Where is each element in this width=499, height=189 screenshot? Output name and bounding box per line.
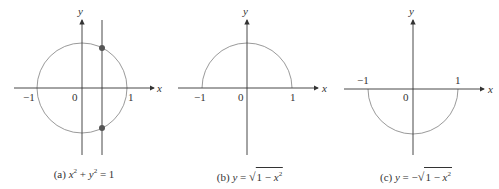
intersection-point-lower — [99, 125, 105, 131]
caption-prefix: (c) — [380, 171, 392, 183]
tick-label-zero: 0 — [238, 91, 244, 103]
y-axis-label: y — [408, 5, 414, 17]
tick-label-one: 1 — [128, 91, 134, 103]
intersection-point-upper — [99, 45, 105, 51]
exponent: 2 — [279, 170, 283, 178]
panel-a-graph: x y −1 0 1 — [14, 5, 162, 155]
equals-sign: = — [237, 171, 249, 183]
caption-a: (a) x2 + y2 = 1 — [54, 167, 115, 180]
y-axis-label: y — [77, 5, 83, 17]
tick-label-neg-one: −1 — [23, 91, 35, 103]
caption-prefix: (b) — [217, 171, 230, 183]
radicand: 1 − x2 — [256, 167, 284, 183]
radicand: 1 − x2 — [424, 167, 452, 183]
tick-label-neg-one: −1 — [357, 74, 369, 86]
x-axis-label: x — [487, 83, 493, 95]
tick-label-one: 1 — [455, 74, 461, 86]
equals-one: = 1 — [97, 168, 114, 180]
caption-prefix: (a) — [54, 168, 66, 180]
plus-sign: + — [77, 168, 89, 180]
radicand-const: 1 − — [257, 171, 274, 183]
panel-c-graph: x y −1 0 1 — [344, 5, 493, 155]
equals-neg-sign: = − — [400, 171, 418, 183]
tick-label-zero: 0 — [403, 91, 409, 103]
caption-c: (c) y = −√1 − x2 — [380, 167, 452, 185]
panel-b-graph: x y −1 0 1 — [178, 5, 327, 155]
exponent: 2 — [447, 170, 451, 178]
diagram-canvas: x y −1 0 1 x y −1 0 1 x y −1 0 1 — [0, 0, 499, 189]
caption-b: (b) y = √1 − x2 — [217, 167, 283, 185]
tick-label-zero: 0 — [72, 91, 78, 103]
x-axis-label: x — [321, 82, 327, 94]
tick-label-one: 1 — [290, 91, 296, 103]
tick-label-neg-one: −1 — [194, 91, 206, 103]
x-axis-label: x — [156, 82, 162, 94]
y-axis-label: y — [242, 5, 248, 17]
radicand-const: 1 − — [425, 171, 442, 183]
